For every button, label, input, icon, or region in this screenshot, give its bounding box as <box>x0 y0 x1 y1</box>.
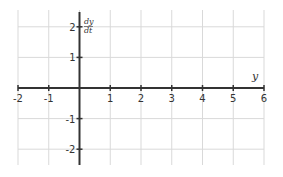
y-axis-label: dy dt <box>84 17 94 35</box>
y-tick-label: 1 <box>69 52 75 63</box>
y-axis-label-numerator: dy <box>84 17 94 26</box>
x-tick-label: -2 <box>13 93 23 104</box>
slope-graph: -2-1123456-2-112 y dy dt <box>0 0 283 177</box>
y-tick-label: -2 <box>66 144 76 155</box>
x-tick-label: 3 <box>169 93 175 104</box>
y-axis-label-denominator: dt <box>84 26 93 35</box>
y-tick-label: -1 <box>66 114 76 125</box>
x-tick-label: 1 <box>107 93 113 104</box>
x-axis-label: y <box>251 70 259 83</box>
x-tick-label: 2 <box>138 93 144 104</box>
x-tick-label: 5 <box>230 93 236 104</box>
x-tick-label: 6 <box>261 93 267 104</box>
x-tick-label: -1 <box>44 93 54 104</box>
x-tick-label: 4 <box>199 93 205 104</box>
y-tick-label: 2 <box>69 22 75 33</box>
